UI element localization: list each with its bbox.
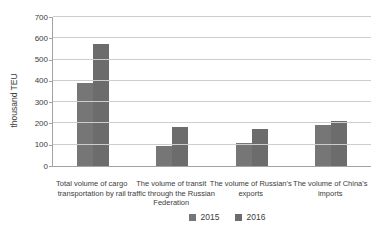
- legend-swatch: [235, 214, 242, 221]
- y-axis-tick-mark: [49, 102, 53, 103]
- category-label: The volume of China's imports: [291, 179, 371, 208]
- y-axis-tick-label: 200: [8, 119, 48, 128]
- plot-area: [52, 17, 371, 167]
- y-axis-tick-label: 700: [8, 13, 48, 22]
- y-axis-tick-mark: [49, 81, 53, 82]
- bar-2015: [77, 83, 93, 166]
- gridline: [53, 144, 371, 145]
- chart: thousand TEU Total volume of cargo trans…: [0, 0, 392, 239]
- y-axis-tick-label: 400: [8, 76, 48, 85]
- bar-2015: [236, 143, 252, 166]
- y-axis-tick-label: 300: [8, 98, 48, 107]
- y-axis-tick-mark: [49, 60, 53, 61]
- y-axis-tick-mark: [49, 17, 53, 18]
- category-label-text: The volume of China's imports: [287, 179, 375, 198]
- y-axis-tick-mark: [49, 123, 53, 124]
- gridline: [53, 122, 371, 123]
- bar-2016: [93, 44, 109, 166]
- category-label-text: The volume of Russian's exports: [207, 179, 295, 198]
- y-axis-tick-label: 600: [8, 34, 48, 43]
- gridline: [53, 59, 371, 60]
- y-axis-tick-mark: [49, 145, 53, 146]
- y-axis-tick-mark: [49, 38, 53, 39]
- category-label-text: The volume of transit traffic through th…: [128, 179, 216, 208]
- category-label: The volume of Russian's exports: [211, 179, 291, 208]
- y-axis-tick-label: 500: [8, 55, 48, 64]
- legend-swatch: [189, 214, 196, 221]
- y-axis-tick-mark: [49, 166, 53, 167]
- legend-label: 2015: [201, 212, 220, 222]
- category-label-text: Total volume of cargo transportation by …: [48, 179, 136, 198]
- bar-2016: [252, 129, 268, 166]
- gridline: [53, 37, 371, 38]
- gridline: [53, 16, 371, 17]
- gridline: [53, 80, 371, 81]
- y-axis-tick-label: 0: [8, 162, 48, 171]
- bar-2016: [172, 127, 188, 166]
- category-label: Total volume of cargo transportation by …: [52, 179, 132, 208]
- legend-item-2016: 2016: [235, 212, 266, 222]
- y-axis-tick-label: 100: [8, 140, 48, 149]
- legend-label: 2016: [247, 212, 266, 222]
- category-labels: Total volume of cargo transportation by …: [52, 179, 370, 208]
- category-label: The volume of transit traffic through th…: [132, 179, 212, 208]
- legend: 20152016: [52, 212, 370, 222]
- legend-item-2015: 2015: [189, 212, 220, 222]
- gridline: [53, 101, 371, 102]
- bar-2015: [315, 125, 331, 167]
- bar-2015: [156, 146, 172, 166]
